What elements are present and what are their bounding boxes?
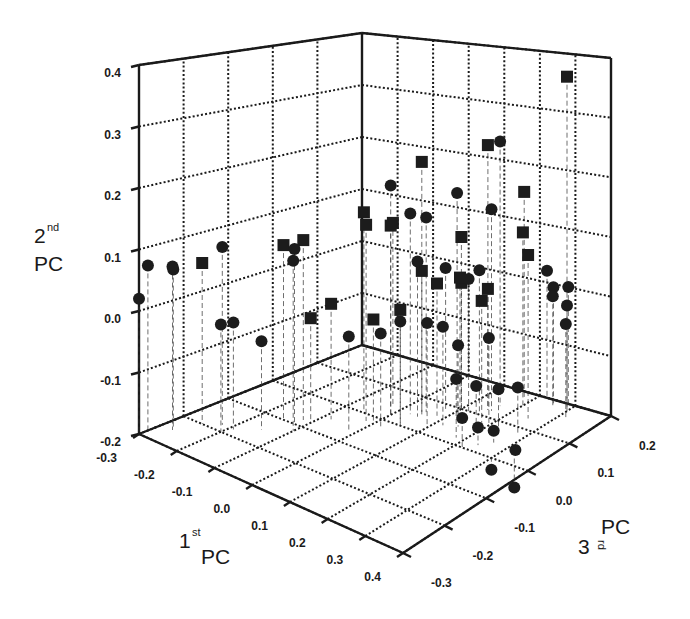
square-marker bbox=[518, 186, 530, 198]
z-tick-label: -0.1 bbox=[514, 521, 535, 535]
x-tick-label: 0.4 bbox=[364, 570, 381, 584]
z-tick-label: 0.0 bbox=[556, 494, 573, 508]
tick-mark bbox=[569, 443, 577, 447]
square-marker bbox=[416, 156, 428, 168]
y-tick-label: 0.2 bbox=[104, 189, 121, 203]
tick-mark bbox=[403, 553, 411, 557]
y-tick-label: 0.1 bbox=[104, 251, 121, 265]
square-marker bbox=[278, 239, 290, 251]
circle-marker bbox=[485, 464, 497, 476]
circle-marker bbox=[483, 332, 495, 344]
circle-marker bbox=[450, 373, 462, 385]
square-marker bbox=[561, 71, 573, 83]
box-edge bbox=[139, 33, 362, 65]
circle-marker bbox=[394, 316, 406, 328]
square-marker bbox=[476, 295, 488, 307]
x-axis-title-sup: st bbox=[192, 526, 201, 538]
circle-marker bbox=[472, 422, 484, 434]
z-axis-title-main: 3 bbox=[578, 535, 590, 558]
x-tick-label: -0.1 bbox=[172, 485, 193, 499]
circle-marker bbox=[562, 281, 574, 293]
square-marker bbox=[196, 257, 208, 269]
circle-marker bbox=[420, 211, 432, 223]
circle-marker bbox=[456, 412, 468, 424]
tick-mark bbox=[246, 485, 252, 489]
circle-marker bbox=[486, 203, 498, 215]
tick-mark bbox=[284, 502, 290, 506]
tick-mark bbox=[528, 471, 536, 475]
circle-marker bbox=[509, 444, 521, 456]
tick-mark bbox=[171, 451, 177, 455]
y-tick-label: -0.2 bbox=[100, 435, 121, 449]
square-marker bbox=[482, 139, 494, 151]
circle-marker bbox=[142, 259, 154, 271]
box-edge bbox=[362, 33, 611, 58]
square-marker bbox=[522, 249, 534, 261]
circle-marker bbox=[412, 255, 424, 267]
y-tick-label: 0.4 bbox=[104, 66, 121, 80]
square-marker bbox=[385, 220, 397, 232]
circle-marker bbox=[133, 293, 145, 305]
z-tick-label: 0.2 bbox=[639, 439, 656, 453]
gridline bbox=[317, 363, 569, 444]
y-tick-label: 0.3 bbox=[104, 128, 121, 142]
pca-3d-scatter-plot: -0.2-0.10.00.10.20.30.4-0.3-0.2-0.10.00.… bbox=[0, 0, 690, 619]
box-edge bbox=[403, 416, 611, 553]
x-axis-title: 1 st PC bbox=[179, 526, 230, 568]
circle-marker bbox=[470, 380, 482, 392]
circle-marker bbox=[451, 187, 463, 199]
square-marker bbox=[394, 304, 406, 316]
tick-mark bbox=[445, 526, 453, 530]
z-axis-title-tail: PC bbox=[601, 515, 630, 538]
z-tick-label: -0.3 bbox=[431, 576, 452, 590]
x-tick-label: -0.3 bbox=[96, 451, 117, 465]
circle-marker bbox=[385, 179, 397, 191]
square-marker bbox=[358, 206, 370, 218]
gridline bbox=[177, 355, 398, 451]
square-marker bbox=[305, 312, 317, 324]
circle-marker bbox=[547, 290, 559, 302]
tick-labels: -0.2-0.10.00.10.20.30.4-0.3-0.2-0.10.00.… bbox=[96, 66, 656, 590]
circle-marker bbox=[512, 382, 524, 394]
circle-marker bbox=[256, 335, 268, 347]
gridlines bbox=[139, 33, 611, 553]
circle-marker bbox=[215, 318, 227, 330]
circle-marker bbox=[493, 383, 505, 395]
z-axis-title: 3 rd PC bbox=[578, 515, 630, 558]
gridline bbox=[139, 189, 362, 250]
tick-mark bbox=[322, 519, 328, 523]
y-axis-title: 2 nd PC bbox=[34, 221, 63, 275]
gridline bbox=[139, 137, 362, 188]
tick-mark bbox=[397, 553, 403, 557]
circle-marker bbox=[404, 208, 416, 220]
square-marker bbox=[325, 298, 337, 310]
square-marker bbox=[367, 314, 379, 326]
circle-marker bbox=[488, 425, 500, 437]
x-tick-label: 0.1 bbox=[251, 519, 268, 533]
y-axis-title-tail: PC bbox=[34, 252, 63, 275]
x-tick-label: 0.3 bbox=[327, 553, 344, 567]
circle-marker bbox=[473, 264, 485, 276]
circle-marker bbox=[227, 317, 239, 329]
square-marker bbox=[455, 231, 467, 243]
circle-marker bbox=[375, 328, 387, 340]
x-tick-label: 0.2 bbox=[289, 536, 306, 550]
z-tick-label: 0.1 bbox=[597, 466, 614, 480]
square-marker bbox=[431, 278, 443, 290]
data-points bbox=[133, 71, 574, 494]
gridline bbox=[139, 85, 362, 127]
y-tick-label: -0.1 bbox=[100, 374, 121, 388]
tick-mark bbox=[359, 536, 365, 540]
y-axis-title-sup: nd bbox=[47, 221, 59, 233]
tick-mark bbox=[208, 468, 214, 472]
y-tick-label: 0.0 bbox=[104, 312, 121, 326]
x-axis-title-main: 1 bbox=[179, 529, 191, 552]
gridline bbox=[362, 85, 611, 118]
square-marker bbox=[482, 283, 494, 295]
circle-marker bbox=[440, 262, 452, 274]
square-marker bbox=[517, 226, 529, 238]
circle-marker bbox=[508, 482, 520, 494]
circle-marker bbox=[437, 321, 449, 333]
tick-mark bbox=[611, 416, 619, 420]
square-marker bbox=[360, 219, 372, 231]
